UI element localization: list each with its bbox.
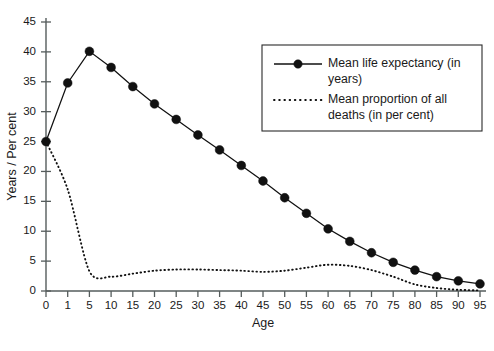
data-point-marker	[194, 131, 203, 140]
y-tick-label: 40	[23, 45, 36, 57]
y-tick-label: 15	[23, 194, 36, 206]
data-point-marker	[215, 146, 224, 155]
data-point-marker	[432, 272, 441, 281]
data-point-marker	[324, 224, 333, 233]
legend-label-proportion-deaths-cont: deaths (in per cent)	[328, 108, 434, 122]
x-tick-label: 0	[43, 299, 49, 311]
data-point-marker	[345, 237, 354, 246]
x-tick-label: 30	[192, 299, 205, 311]
y-tick-label: 20	[23, 164, 36, 176]
y-tick-label: 10	[23, 224, 36, 236]
x-tick-label: 20	[148, 299, 161, 311]
y-tick-label: 5	[30, 254, 36, 266]
x-tick-label: 45	[257, 299, 270, 311]
data-point-marker	[107, 63, 116, 72]
x-tick-label: 60	[322, 299, 335, 311]
y-tick-label: 25	[23, 135, 36, 147]
data-point-marker	[128, 82, 137, 91]
x-tick-label: 35	[213, 299, 226, 311]
x-tick-label: 70	[365, 299, 378, 311]
data-point-marker	[454, 276, 463, 285]
data-point-marker	[172, 115, 181, 124]
data-point-marker	[85, 47, 94, 56]
x-tick-label: 15	[126, 299, 139, 311]
y-tick-label: 45	[23, 15, 36, 27]
x-tick-label: 10	[105, 299, 118, 311]
life-expectancy-line-chart: 0510152025303540450151015202530354045505…	[0, 0, 494, 351]
y-tick-label: 30	[23, 105, 36, 117]
x-tick-label: 85	[430, 299, 443, 311]
data-point-marker	[411, 266, 420, 275]
x-tick-label: 55	[300, 299, 313, 311]
x-tick-label: 90	[452, 299, 465, 311]
x-axis-title: Age	[252, 316, 274, 330]
data-point-marker	[280, 193, 289, 202]
legend-label-proportion-deaths: Mean proportion of all	[328, 92, 447, 106]
y-axis-title: Years / Per cent	[5, 112, 19, 201]
data-point-marker	[302, 209, 311, 218]
x-tick-label: 65	[343, 299, 356, 311]
x-tick-label: 5	[86, 299, 92, 311]
data-point-marker	[367, 248, 376, 257]
chart-container: 0510152025303540450151015202530354045505…	[0, 0, 494, 351]
x-tick-label: 40	[235, 299, 248, 311]
data-point-marker	[42, 137, 51, 146]
data-point-marker	[259, 177, 268, 186]
data-point-marker	[389, 258, 398, 267]
y-tick-label: 35	[23, 75, 36, 87]
x-tick-label: 1	[64, 299, 70, 311]
legend-marker-icon	[294, 60, 302, 68]
x-tick-label: 95	[474, 299, 487, 311]
x-tick-label: 80	[409, 299, 422, 311]
x-tick-label: 75	[387, 299, 400, 311]
legend-label-life-expectancy-cont: years)	[328, 72, 362, 86]
data-point-marker	[150, 100, 159, 109]
data-point-marker	[63, 79, 72, 88]
x-tick-label: 25	[170, 299, 183, 311]
data-point-marker	[476, 279, 485, 288]
legend-label-life-expectancy: Mean life expectancy (in	[328, 56, 461, 70]
data-point-marker	[237, 161, 246, 170]
y-tick-label: 0	[30, 284, 36, 296]
x-tick-label: 50	[278, 299, 291, 311]
